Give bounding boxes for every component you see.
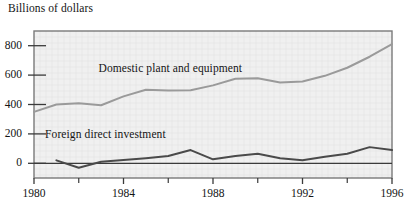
chart-figure: Billions of dollars 02004006008001980198… [0, 0, 408, 213]
series-label-foreign-direct-investment: Foreign direct investment [45, 128, 166, 140]
chart-canvas [0, 0, 408, 213]
y-axis-tick-label: 600 [0, 69, 22, 81]
x-axis-tick-label: 1980 [12, 188, 56, 200]
x-axis-tick-label: 1988 [191, 188, 235, 200]
x-axis-tick-label: 1992 [281, 188, 325, 200]
plot-area [0, 0, 408, 213]
x-axis-tick-label: 1984 [102, 188, 146, 200]
series-label-domestic-plant-and-equipment: Domestic plant and equipment [98, 62, 242, 74]
y-axis-tick-label: 0 [0, 157, 22, 169]
y-axis-tick-label: 200 [0, 128, 22, 140]
x-axis-tick-label: 1996 [370, 188, 408, 200]
y-axis-tick-label: 400 [0, 99, 22, 111]
y-axis-tick-label: 800 [0, 40, 22, 52]
